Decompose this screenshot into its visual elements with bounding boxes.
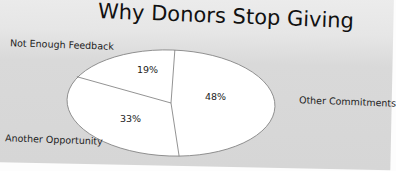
- value-feedback: 19%: [137, 64, 158, 75]
- value-other: 48%: [205, 91, 226, 102]
- value-another: 33%: [120, 113, 141, 124]
